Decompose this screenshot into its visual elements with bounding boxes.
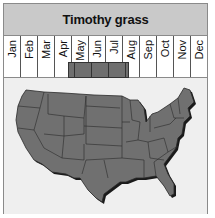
chart-title: Timothy grass bbox=[4, 4, 207, 36]
month-label: Nov bbox=[176, 40, 188, 60]
month-label: Jul bbox=[108, 40, 120, 54]
month-dec: Dec bbox=[191, 36, 207, 77]
us-map bbox=[4, 78, 207, 214]
month-label: Dec bbox=[193, 40, 205, 60]
month-label: Apr bbox=[57, 40, 69, 57]
chart-frame: Timothy grass Jan Feb Mar Apr May Jun Ju… bbox=[3, 3, 208, 214]
month-mar: Mar bbox=[38, 36, 55, 77]
month-label: May bbox=[74, 40, 86, 61]
month-jan: Jan bbox=[4, 36, 21, 77]
month-label: Aug bbox=[125, 40, 137, 60]
us-map-icon bbox=[4, 78, 207, 214]
month-label: Jan bbox=[6, 40, 18, 58]
month-label: Mar bbox=[40, 40, 52, 59]
month-sep: Sep bbox=[140, 36, 157, 77]
pollen-season-bar bbox=[68, 62, 129, 78]
month-oct: Oct bbox=[157, 36, 174, 77]
month-label: Oct bbox=[159, 40, 171, 57]
month-label: Feb bbox=[23, 40, 35, 59]
month-label: Sep bbox=[142, 40, 154, 60]
month-feb: Feb bbox=[21, 36, 38, 77]
month-nov: Nov bbox=[174, 36, 191, 77]
month-label: Jun bbox=[91, 40, 103, 58]
